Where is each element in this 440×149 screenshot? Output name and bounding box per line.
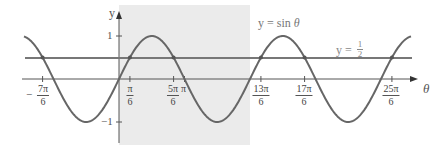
y-tick-label-1: 1 <box>107 30 113 41</box>
tick-num: 17π <box>295 84 312 96</box>
tick-den: 6 <box>171 96 176 107</box>
x-axis-arrow-icon <box>410 76 418 82</box>
tick-label-25pi-6: 25π 6 <box>382 84 399 107</box>
intersection-point <box>259 56 263 60</box>
tick-den: 6 <box>128 96 133 107</box>
sine-chart <box>0 0 440 149</box>
sin-annotation-prefix: y = sin <box>258 16 294 30</box>
intersection-point <box>41 56 45 60</box>
intersection-point <box>390 56 394 60</box>
tick-label-17pi-6: 17π 6 <box>295 84 312 107</box>
tick-den: 6 <box>389 96 394 107</box>
tick-num: 13π <box>252 84 269 96</box>
tick-num: 7π <box>37 84 49 96</box>
tick-label-pi: π <box>181 84 186 94</box>
tick-den: 6 <box>41 96 46 107</box>
tick-den: 6 <box>302 96 307 107</box>
half-annotation-prefix: y = <box>336 44 355 56</box>
shaded-region-0-to-2pi <box>119 5 250 145</box>
sin-annotation: y = sin θ <box>258 17 300 29</box>
tick-label-neg-7pi-6: 7π 6 <box>37 84 49 107</box>
y-axis-label: y <box>109 7 115 19</box>
sin-annotation-var: θ <box>294 16 300 30</box>
tick-num: π <box>126 84 133 96</box>
tick-label-5pi-6: 5π 6 <box>167 84 179 107</box>
tick-label-13pi-6: 13π 6 <box>252 84 269 107</box>
intersection-point <box>128 56 132 60</box>
intersection-point <box>303 56 307 60</box>
half-annotation: y = 1 2 <box>336 40 363 59</box>
tick-label-minus: − <box>26 88 32 100</box>
x-axis-label: θ <box>423 82 429 95</box>
tick-num: 25π <box>382 84 399 96</box>
tick-label-pi-6: π 6 <box>126 84 133 107</box>
y-tick-label-neg1: −1 <box>101 116 113 127</box>
intersection-point <box>172 56 176 60</box>
half-den: 2 <box>358 50 363 59</box>
tick-den: 6 <box>259 96 264 107</box>
tick-num: 5π <box>167 84 179 96</box>
